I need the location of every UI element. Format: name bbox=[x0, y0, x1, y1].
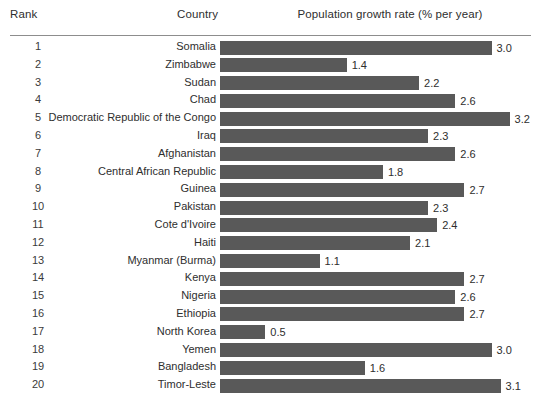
table-row: 17North Korea0.5 bbox=[0, 324, 542, 342]
row-bar-value-label: 1.8 bbox=[388, 165, 403, 179]
row-bar-zone: 3.1 bbox=[220, 379, 542, 393]
row-bar-value-label: 2.6 bbox=[460, 290, 475, 304]
row-bar-zone: 2.2 bbox=[220, 76, 542, 90]
row-country-label: Yemen bbox=[40, 343, 216, 355]
row-bar-zone: 2.4 bbox=[220, 218, 542, 232]
row-bar-value-label: 2.4 bbox=[442, 218, 457, 232]
table-row: 8Central African Republic1.8 bbox=[0, 164, 542, 182]
row-country-label: Haiti bbox=[40, 236, 216, 248]
table-row: 13Myanmar (Burma)1.1 bbox=[0, 253, 542, 271]
row-bar-value-label: 3.1 bbox=[506, 379, 521, 393]
row-bar bbox=[220, 290, 455, 304]
row-country-label: Iraq bbox=[40, 129, 216, 141]
row-bar-value-label: 2.6 bbox=[460, 94, 475, 108]
row-bar-zone: 3.2 bbox=[220, 112, 542, 126]
row-bar bbox=[220, 343, 492, 357]
table-row: 5Democratic Republic of the Congo3.2 bbox=[0, 110, 542, 128]
row-bar bbox=[220, 218, 437, 232]
row-bar-zone: 3.0 bbox=[220, 343, 542, 357]
row-bar bbox=[220, 201, 428, 215]
row-country-label: Afghanistan bbox=[40, 147, 216, 159]
row-bar-value-label: 2.7 bbox=[469, 272, 484, 286]
row-bar bbox=[220, 147, 455, 161]
row-bar-zone: 2.1 bbox=[220, 236, 542, 250]
row-bar bbox=[220, 129, 428, 143]
row-bar-zone: 2.7 bbox=[220, 183, 542, 197]
row-bar-zone: 1.1 bbox=[220, 254, 542, 268]
row-bar-zone: 1.6 bbox=[220, 361, 542, 375]
table-row: 2Zimbabwe1.4 bbox=[0, 57, 542, 75]
table-row: 10Pakistan2.3 bbox=[0, 199, 542, 217]
row-bar-value-label: 3.2 bbox=[515, 112, 530, 126]
row-bar-zone: 1.8 bbox=[220, 165, 542, 179]
table-row: 19Bangladesh1.6 bbox=[0, 359, 542, 377]
row-country-label: Sudan bbox=[40, 76, 216, 88]
row-country-label: Democratic Republic of the Congo bbox=[40, 111, 216, 123]
row-country-label: Zimbabwe bbox=[40, 58, 216, 70]
row-bar bbox=[220, 236, 410, 250]
row-bar-value-label: 3.0 bbox=[497, 41, 512, 55]
row-country-label: Chad bbox=[40, 93, 216, 105]
row-country-label: Somalia bbox=[40, 40, 216, 52]
row-bar-value-label: 1.6 bbox=[370, 361, 385, 375]
row-bar bbox=[220, 325, 265, 339]
table-row: 11Cote d'Ivoire2.4 bbox=[0, 217, 542, 235]
row-bar bbox=[220, 183, 464, 197]
row-bar-value-label: 2.7 bbox=[469, 307, 484, 321]
row-country-label: Cote d'Ivoire bbox=[40, 218, 216, 230]
row-bar-zone: 3.0 bbox=[220, 41, 542, 55]
table-row: 7Afghanistan2.6 bbox=[0, 146, 542, 164]
table-row: 20Timor-Leste3.1 bbox=[0, 377, 542, 395]
column-header-population-growth-rate: Population growth rate (% per year) bbox=[250, 8, 530, 20]
row-country-label: Kenya bbox=[40, 271, 216, 283]
table-row: 1Somalia3.0 bbox=[0, 39, 542, 57]
table-row: 14Kenya2.7 bbox=[0, 270, 542, 288]
row-bar-value-label: 2.3 bbox=[433, 201, 448, 215]
table-row: 4Chad2.6 bbox=[0, 92, 542, 110]
row-bar bbox=[220, 379, 501, 393]
row-bar bbox=[220, 76, 419, 90]
row-bar bbox=[220, 272, 464, 286]
table-row: 12Haiti2.1 bbox=[0, 235, 542, 253]
row-bar-value-label: 2.3 bbox=[433, 129, 448, 143]
row-country-label: Pakistan bbox=[40, 200, 216, 212]
column-header-rank: Rank bbox=[10, 8, 37, 20]
table-row: 3Sudan2.2 bbox=[0, 75, 542, 93]
row-bar bbox=[220, 307, 464, 321]
table-row: 16Ethiopia2.7 bbox=[0, 306, 542, 324]
row-bar bbox=[220, 41, 492, 55]
table-row: 6Iraq2.3 bbox=[0, 128, 542, 146]
row-country-label: North Korea bbox=[40, 325, 216, 337]
row-bar-value-label: 2.1 bbox=[415, 236, 430, 250]
table-row: 15Nigeria2.6 bbox=[0, 288, 542, 306]
row-country-label: Bangladesh bbox=[40, 360, 216, 372]
row-country-label: Central African Republic bbox=[40, 165, 216, 177]
table-row: 18Yemen3.0 bbox=[0, 342, 542, 360]
row-country-label: Guinea bbox=[40, 182, 216, 194]
row-country-label: Timor-Leste bbox=[40, 378, 216, 390]
row-bar-value-label: 2.6 bbox=[460, 147, 475, 161]
row-bar bbox=[220, 58, 347, 72]
row-country-label: Myanmar (Burma) bbox=[40, 254, 216, 266]
row-bar-zone: 2.7 bbox=[220, 272, 542, 286]
row-country-label: Ethiopia bbox=[40, 307, 216, 319]
row-bar-zone: 2.6 bbox=[220, 94, 542, 108]
row-bar-zone: 2.6 bbox=[220, 290, 542, 304]
population-growth-chart: Rank Country Population growth rate (% p… bbox=[0, 0, 542, 413]
table-row: 9Guinea2.7 bbox=[0, 181, 542, 199]
row-country-label: Nigeria bbox=[40, 289, 216, 301]
header-divider bbox=[10, 35, 531, 36]
row-bar bbox=[220, 254, 320, 268]
row-bar-zone: 1.4 bbox=[220, 58, 542, 72]
row-bar bbox=[220, 165, 383, 179]
row-bar-value-label: 1.4 bbox=[352, 58, 367, 72]
row-bar bbox=[220, 112, 510, 126]
row-bar-zone: 0.5 bbox=[220, 325, 542, 339]
row-bar-zone: 2.7 bbox=[220, 307, 542, 321]
row-bar bbox=[220, 361, 365, 375]
row-bar bbox=[220, 94, 455, 108]
table-header: Rank Country Population growth rate (% p… bbox=[0, 8, 542, 30]
row-bar-zone: 2.3 bbox=[220, 201, 542, 215]
row-bar-value-label: 3.0 bbox=[497, 343, 512, 357]
row-bar-value-label: 2.7 bbox=[469, 183, 484, 197]
